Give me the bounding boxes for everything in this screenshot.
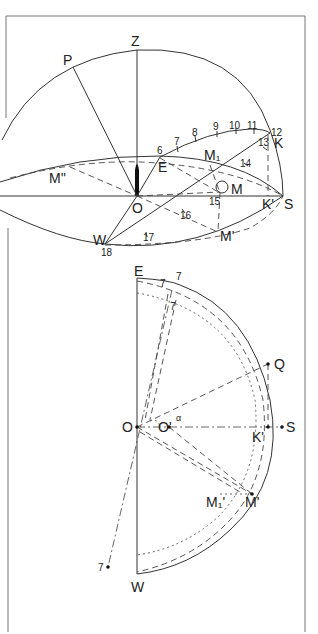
bottom-label-M-prime: M': [245, 494, 259, 510]
label-K-prime: K': [262, 196, 274, 212]
hour-6: 6: [157, 145, 163, 156]
bottom-label-alpha: α: [176, 413, 181, 423]
hour-7: 7: [174, 136, 180, 147]
hour-17: 17: [143, 232, 155, 243]
bottom-label-K-prime: K': [252, 429, 264, 445]
bottom-label-M1-prime: M₁': [206, 494, 225, 510]
sundial-geometry-figure: Z P E O S W K K' M M₁ M' M'' 6 7 8 9 10 …: [0, 0, 318, 634]
bottom-diagram: E O O' K' S Q W M' M₁' α 7 7 7 7: [98, 263, 295, 595]
hour-13: 13: [258, 137, 270, 148]
bottom-hour-7-d: 7: [98, 562, 104, 573]
label-M1: M₁: [204, 147, 221, 163]
gnomon: [135, 164, 139, 196]
bottom-label-E: E: [134, 263, 143, 279]
label-M-prime: M': [220, 228, 234, 244]
hour-15: 15: [209, 196, 221, 207]
bottom-label-S: S: [286, 419, 295, 435]
label-O: O: [132, 200, 143, 216]
label-W: W: [93, 232, 107, 248]
hour-12: 12: [271, 127, 283, 138]
hour-14: 14: [240, 158, 252, 169]
bottom-hour-7-a: 7: [176, 271, 182, 282]
bottom-label-O-prime: O': [158, 419, 172, 435]
bottom-label-Q: Q: [274, 356, 285, 372]
label-M-double-prime: M'': [49, 170, 66, 186]
top-diagram: Z P E O S W K K' M M₁ M' M'' 6 7 8 9 10 …: [0, 33, 293, 258]
label-P: P: [63, 52, 72, 68]
hour-10: 10: [229, 120, 241, 131]
bottom-label-W: W: [131, 579, 145, 595]
bottom-label-O: O: [122, 419, 133, 435]
bottom-hour-7-b: 7: [160, 278, 166, 289]
label-E: E: [158, 159, 167, 175]
hour-16: 16: [180, 210, 192, 221]
hour-9: 9: [213, 121, 219, 132]
hour-18: 18: [101, 247, 113, 258]
label-M: M: [231, 181, 243, 197]
meridian-arc: [2, 50, 283, 196]
hour-8: 8: [192, 127, 198, 138]
label-Z: Z: [131, 33, 140, 49]
hour-11: 11: [247, 120, 258, 131]
label-S: S: [284, 196, 293, 212]
bottom-hour-7-c: 7: [170, 301, 176, 312]
